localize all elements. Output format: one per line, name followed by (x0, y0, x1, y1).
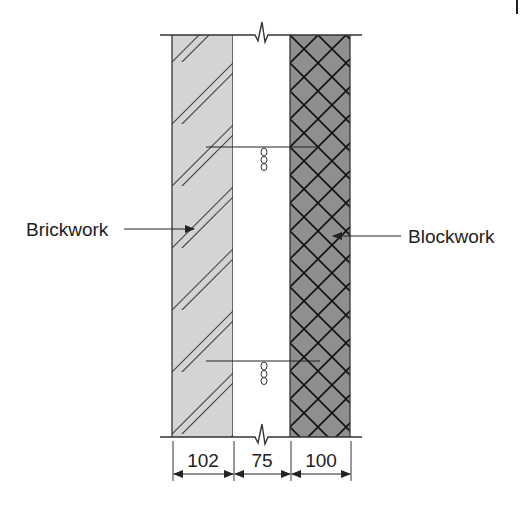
label-blockwork: Blockwork (408, 226, 495, 247)
label-brickwork: Brickwork (26, 219, 109, 240)
dimension-blockwork: 100 (305, 450, 337, 471)
dimension-cavity: 75 (251, 450, 272, 471)
cavity-wall-diagram: Brickwork Blockwork 102 75 100 (0, 0, 527, 508)
brickwork-leaf (172, 35, 233, 437)
dimension-brickwork: 102 (187, 450, 219, 471)
page-edge-mark (516, 0, 518, 14)
